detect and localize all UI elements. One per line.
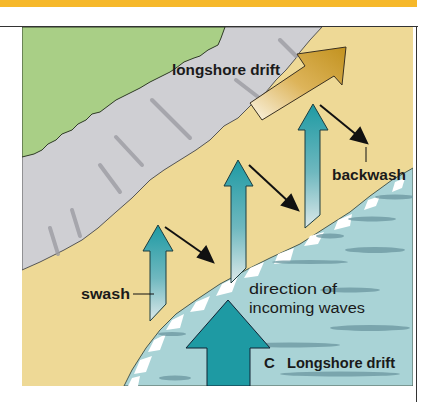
label-incoming-line1: direction of [249,281,337,297]
label-incoming-line2: incoming waves [249,300,365,316]
figure-caption-title: Longshore drift [287,354,395,371]
figure-caption-letter: C [264,354,275,371]
label-longshore-drift: longshore drift [172,62,280,78]
longshore-drift-diagram: longshore drift backwash swash direction… [0,0,429,402]
label-swash: swash [81,286,130,302]
label-backwash: backwash [332,167,406,183]
